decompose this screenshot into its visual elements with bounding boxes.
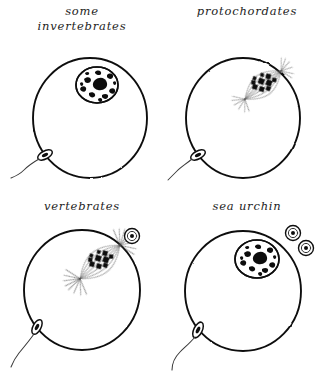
panel-vertebrates: vertebrates — [0, 195, 164, 389]
nucleus-intact — [76, 67, 118, 103]
sperm-tail — [11, 334, 34, 367]
egg-cell-diagram-vertebrates — [0, 195, 164, 389]
polar-body-2 — [299, 241, 314, 256]
figure-root: some invertebrates — [0, 0, 329, 389]
sperm — [168, 148, 207, 180]
panel-some-invertebrates: some invertebrates — [0, 0, 164, 194]
egg-cell-diagram-protochordates — [165, 0, 329, 194]
sperm — [11, 148, 54, 178]
sperm — [172, 321, 206, 370]
egg-cell-diagram-sea-urchin — [165, 195, 329, 389]
sperm-tail — [11, 159, 39, 178]
sperm — [11, 318, 44, 367]
egg-membrane — [24, 230, 140, 350]
meiotic-spindle — [227, 53, 298, 116]
nucleus-intact — [235, 240, 279, 278]
polar-body-1 — [286, 226, 301, 241]
panel-protochordates: protochordates — [165, 0, 329, 194]
polar-body-1 — [125, 229, 140, 244]
panel-sea-urchin: sea urchin — [165, 195, 329, 389]
egg-membrane — [186, 58, 300, 178]
sperm-tail — [168, 159, 192, 180]
egg-cell-diagram-some-invertebrates — [0, 0, 164, 194]
sperm-tail — [172, 337, 195, 370]
